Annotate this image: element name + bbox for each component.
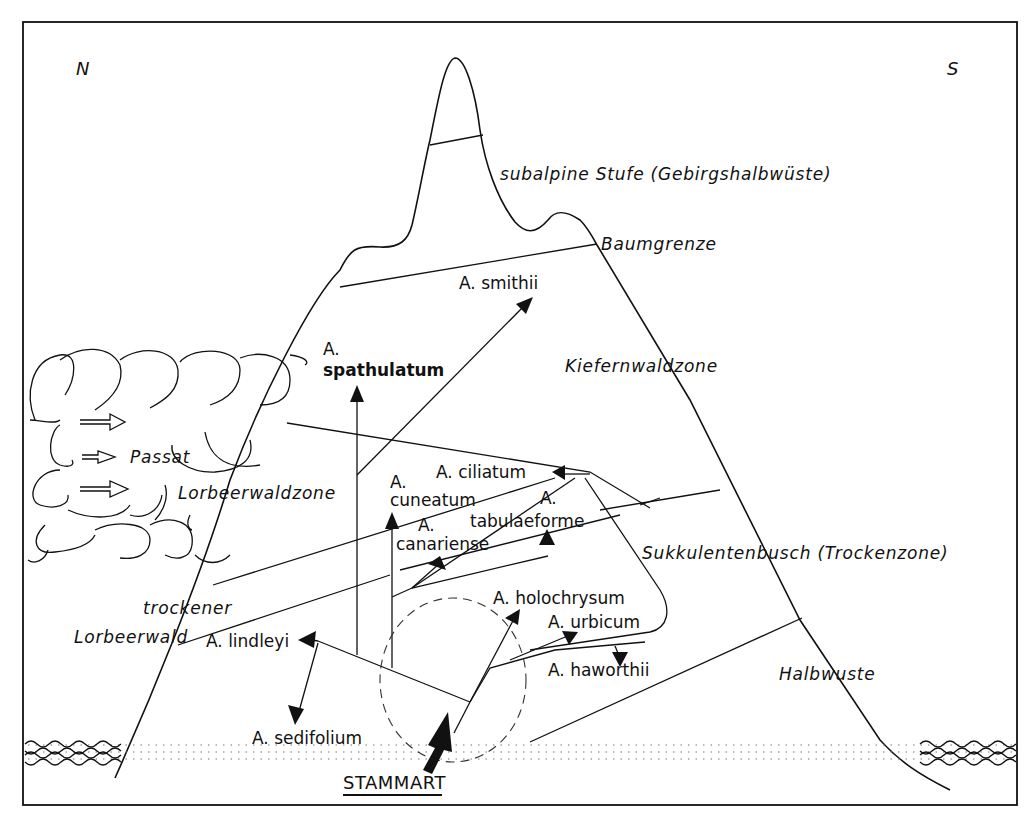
species-holochrysum: A. holochrysum [493,588,625,608]
ground-layer [28,745,1015,759]
species-smithii: A. smithii [459,273,538,293]
subalpine-boundary [430,135,483,145]
species-canariense-prefix: A. [418,515,435,535]
species-haworthii: A. haworthii [548,660,650,680]
stammart-arrow [423,712,452,774]
passat-label: Passat [130,447,191,467]
origin-circle [380,598,526,762]
species-tabulaeforme: tabulaeforme [470,511,584,531]
sea-waves-left [25,741,121,765]
species-canariense: canariense [396,534,489,554]
zone-label-laurel-forest: Lorbeerwaldzone [178,483,336,503]
zone-label-treeline: Baumgrenze [601,234,717,254]
species-tabulaeforme-prefix: A. [540,488,557,508]
species-ciliatum: A. ciliatum [436,462,526,482]
zone-label-semi-desert: Halbwuste [779,664,876,684]
sea-waves-right [920,741,1016,765]
south-label: S [947,58,958,79]
zone-label-dry-laurel-2: Lorbeerwald [74,627,188,647]
species-cuneatum: cuneatum [390,490,476,510]
species-spathulatum-prefix: A. [323,339,340,359]
species-cuneatum-prefix: A. [390,472,407,492]
figure-frame [23,22,1017,805]
zone-label-subalpine: subalpine Stufe (Gebirgshalbwüste) [500,164,831,184]
zone-label-pine-forest: Kiefernwaldzone [565,356,718,376]
north-label: N [76,58,89,79]
trade-wind-arrows [80,414,128,497]
species-lindleyi: A. lindleyi [206,631,289,651]
zone-label-dry-laurel-1: trockener [143,598,232,618]
origin-label: STAMMART [343,772,446,793]
vegetation-zone-diagram: N S Passat [0,0,1029,825]
species-urbicum: A. urbicum [548,612,640,632]
species-spathulatum: spathulatum [323,360,444,380]
species-sedifolium: A. sedifolium [252,728,362,748]
zone-label-succulent-bush: Sukkulentenbusch (Trockenzone) [642,543,949,563]
